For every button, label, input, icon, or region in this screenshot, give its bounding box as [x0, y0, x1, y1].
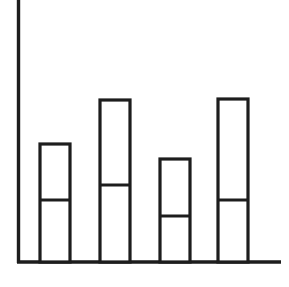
- bar-outline-3[interactable]: [160, 159, 190, 262]
- bar-series-item-2[interactable]: [100, 100, 130, 262]
- bar-chart-figure: [0, 0, 289, 287]
- chart-canvas: [0, 0, 289, 287]
- bar-outline-2[interactable]: [100, 100, 130, 262]
- bar-outline-1[interactable]: [40, 144, 70, 262]
- bar-series-item-1[interactable]: [40, 144, 70, 262]
- bar-series-item-4[interactable]: [218, 99, 248, 262]
- bar-outline-4[interactable]: [218, 99, 248, 262]
- bar-series-item-3[interactable]: [160, 159, 190, 262]
